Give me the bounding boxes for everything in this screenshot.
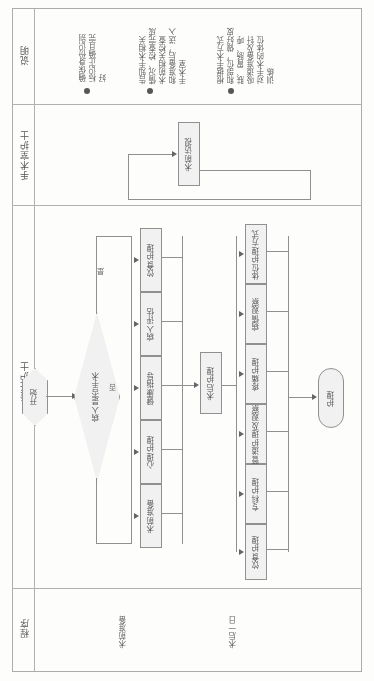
note-bullet-2 bbox=[147, 88, 153, 94]
node-post-3-label: 疼痛护理 bbox=[251, 357, 261, 391]
edge-post-1-out bbox=[267, 251, 288, 252]
note-text-3: 根据手术方式 和部位，做好皮 肤、胃肠、呼 吸道准备及针 对手术的体位 训练 bbox=[216, 14, 268, 84]
edge-post-3-out bbox=[267, 371, 288, 372]
edge-post-4-out bbox=[267, 431, 288, 432]
edge-preop-visit-return bbox=[128, 199, 310, 200]
node-decision-label: 病人是否手术 bbox=[91, 371, 101, 422]
node-preop-5[interactable]: 术前准备 bbox=[140, 484, 162, 548]
arrowhead-preop-5 bbox=[134, 513, 139, 519]
arrowhead-end bbox=[312, 394, 317, 400]
node-post-5[interactable]: 专科护理 bbox=[245, 464, 267, 524]
node-post-6[interactable]: 饮食护理 bbox=[245, 524, 267, 580]
arrowhead-post-6 bbox=[239, 549, 244, 555]
node-preop-1-label: 饮食护理 bbox=[146, 243, 156, 277]
node-preop-visit-label: 术前访视 bbox=[184, 137, 194, 171]
node-post-5-label: 专科护理 bbox=[251, 477, 261, 511]
edge-post-2-out bbox=[267, 311, 288, 312]
edge-preop-spine bbox=[131, 236, 132, 544]
band-separator-3 bbox=[12, 588, 362, 589]
band-separator-1 bbox=[12, 104, 362, 105]
node-postop-care-label: 术后护理 bbox=[206, 366, 216, 400]
note-text-2: 告知手术相关 情况、检查完成 术前相关检查 和准备后，送入 手术室 bbox=[138, 14, 178, 84]
band-header-or-nurse: 手术室护士 bbox=[14, 118, 34, 192]
node-preop-5-label: 术前准备 bbox=[146, 499, 156, 533]
arrowhead-post-4 bbox=[239, 431, 244, 437]
node-post-1-label: 体位护理方式 bbox=[251, 229, 261, 280]
arrowhead-postop-care bbox=[194, 382, 199, 388]
node-preop-4[interactable]: 心理护理 bbox=[140, 420, 162, 484]
node-start[interactable]: 开始 bbox=[22, 368, 46, 424]
edge-preop-1-out bbox=[162, 257, 182, 258]
arrowhead-preop-visit bbox=[172, 151, 177, 157]
table-frame bbox=[12, 8, 362, 672]
edge-postop-care-out bbox=[222, 385, 236, 386]
edge-to-end bbox=[288, 397, 312, 398]
node-start-label: 开始 bbox=[29, 388, 39, 405]
node-post-6-label: 饮食护理 bbox=[251, 535, 261, 569]
node-post-2[interactable]: 病情观察 bbox=[245, 284, 267, 344]
band-header-description: 说明 bbox=[14, 30, 34, 80]
edge-post-5-out bbox=[267, 491, 288, 492]
arrowhead-post-1 bbox=[239, 251, 244, 257]
document-page: 说明 手术室护士 责任护士 程序 确保身份识别 标识正确且完 好 告知手术相关 … bbox=[0, 0, 374, 681]
arrowhead-post-5 bbox=[239, 491, 244, 497]
note-bullet-1 bbox=[84, 88, 90, 94]
header-gutter-line bbox=[34, 8, 35, 672]
arrowhead-preop-4 bbox=[134, 449, 139, 455]
edge-postop-spine bbox=[236, 236, 237, 552]
edge-spine-top bbox=[96, 236, 132, 237]
node-postop-care[interactable]: 术后护理 bbox=[200, 352, 222, 414]
note-bullet-3 bbox=[228, 88, 234, 94]
node-end-label: 护理 bbox=[326, 390, 336, 407]
node-post-4[interactable]: 管道护理及观察 bbox=[245, 404, 267, 464]
node-post-1[interactable]: 体位护理方式 bbox=[245, 224, 267, 284]
band-separator-2 bbox=[12, 205, 362, 206]
arrowhead-preop-2 bbox=[134, 321, 139, 327]
edge-post-6-out bbox=[267, 549, 288, 550]
edge-label-no: 否 bbox=[108, 384, 118, 391]
edge-decision-up bbox=[96, 236, 97, 314]
node-post-4-label: 管道护理及观察 bbox=[251, 404, 261, 464]
edge-decision-down bbox=[96, 478, 97, 544]
edge-preop-4-out bbox=[162, 449, 182, 450]
node-post-3[interactable]: 疼痛护理 bbox=[245, 344, 267, 404]
node-preop-3[interactable]: 健康指导 bbox=[140, 356, 162, 420]
edge-postop-collector bbox=[288, 236, 289, 552]
edge-preop-visit-riser bbox=[128, 154, 129, 200]
band-header-procedure: 程序 bbox=[14, 608, 34, 648]
arrowhead-preop-1 bbox=[134, 257, 139, 263]
node-preop-visit[interactable]: 术前访视 bbox=[178, 122, 200, 186]
note-text-1: 确保身份识别 标识正确且完 好 bbox=[78, 14, 106, 82]
arrowhead-post-2 bbox=[239, 311, 244, 317]
edge-preop-visit-top bbox=[200, 170, 310, 171]
edge-spine-bottom bbox=[96, 543, 132, 544]
node-preop-3-label: 健康指导 bbox=[146, 371, 156, 405]
edge-preop-2-out bbox=[162, 321, 182, 322]
arrowhead-preop-3 bbox=[134, 385, 139, 391]
edge-start-decision bbox=[46, 396, 74, 397]
node-decision[interactable]: 病人是否手术 bbox=[74, 312, 118, 480]
edge-label-yes: 是 bbox=[96, 268, 106, 275]
arrowhead-post-3 bbox=[239, 371, 244, 377]
procedure-label-1: 术前准备 bbox=[118, 604, 132, 648]
edge-to-preop-visit bbox=[128, 154, 172, 155]
scanned-sheet: 说明 手术室护士 责任护士 程序 确保身份识别 标识正确且完 好 告知手术相关 … bbox=[0, 0, 374, 681]
edge-preop-collector bbox=[182, 236, 183, 544]
node-preop-2-label: 病人评估 bbox=[146, 307, 156, 341]
edge-preop-3-out bbox=[162, 385, 182, 386]
node-end[interactable]: 护理 bbox=[318, 368, 344, 428]
node-preop-2[interactable]: 病人评估 bbox=[140, 292, 162, 356]
edge-preop-5-out bbox=[162, 513, 182, 514]
node-preop-4-label: 心理护理 bbox=[146, 435, 156, 469]
node-preop-1[interactable]: 饮食护理 bbox=[140, 228, 162, 292]
procedure-label-2: 术后一日 bbox=[228, 604, 242, 648]
node-post-2-label: 病情观察 bbox=[251, 297, 261, 331]
edge-preop-visit-drop bbox=[310, 170, 311, 200]
